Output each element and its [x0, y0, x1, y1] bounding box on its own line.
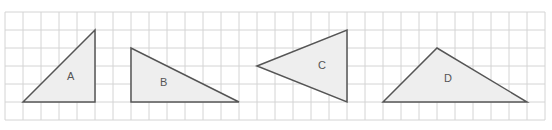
triangle-shape	[257, 30, 347, 102]
triangle-label: D	[444, 72, 452, 84]
triangle-label: C	[318, 59, 326, 71]
triangle-label: A	[67, 70, 75, 82]
triangle-label: B	[160, 76, 167, 88]
triangle-grid-diagram: ABCD	[0, 0, 552, 130]
triangle-c: C	[257, 30, 347, 102]
